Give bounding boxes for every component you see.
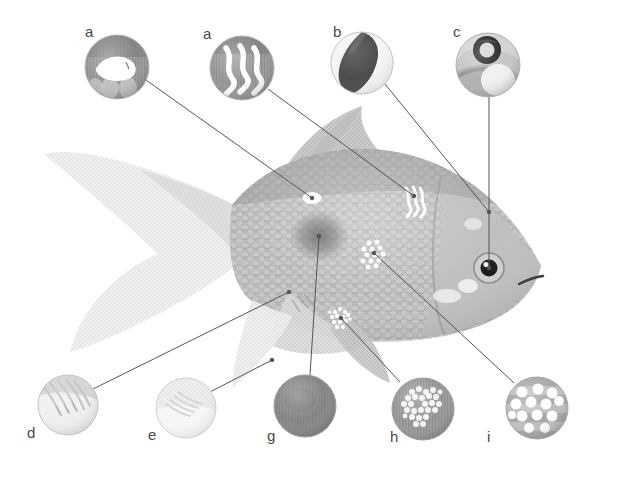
- inset-h-granular-cluster: [392, 378, 454, 440]
- inset-e-pale-rays: [156, 378, 216, 438]
- callout-label-d: d: [27, 425, 35, 440]
- callout-label-e: e: [148, 427, 156, 442]
- head-lesion-patch-1: [458, 279, 478, 293]
- inset-i-white-spots: [506, 377, 568, 440]
- fish-disease-figure: a a b c d e g h i: [0, 0, 622, 478]
- callout-label-i: i: [487, 429, 490, 444]
- head-lesion-patch-3: [464, 218, 482, 230]
- callout-label-h: h: [390, 429, 398, 444]
- inset-g-dark-patch: [274, 375, 336, 437]
- inset-a2-streaks: [210, 36, 274, 100]
- inset-b-fin-edge: [331, 32, 393, 94]
- fish-illustration: [44, 106, 546, 388]
- callout-label-g: g: [267, 428, 275, 443]
- callout-label-c: c: [453, 24, 461, 39]
- head-lesion-patch-2: [433, 289, 461, 303]
- figure-canvas: [0, 0, 622, 478]
- callout-label-b: b: [333, 24, 341, 39]
- inset-a1-ulcer: [85, 35, 149, 99]
- caudal-fin: [44, 152, 248, 352]
- inset-d-frayed-rays: [38, 375, 98, 435]
- callout-label-a1: a: [85, 24, 93, 39]
- inset-c-eye: [456, 33, 520, 97]
- callout-label-a2: a: [203, 26, 211, 41]
